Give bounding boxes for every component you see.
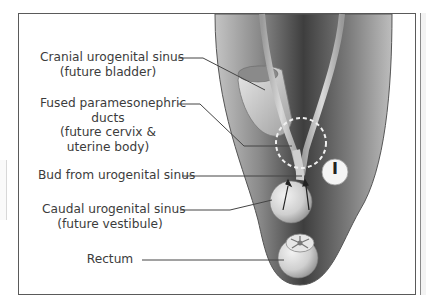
label-line: Cranial urogenital sinus <box>40 50 176 65</box>
stage-badge-label: I <box>329 162 341 177</box>
label-line: ducts <box>40 111 176 126</box>
label-line: (future cervix & <box>40 125 176 140</box>
label-fused-paramesonephric-ducts: Fused paramesonephric ducts (future cerv… <box>40 96 176 154</box>
label-line: Bud from urogenital sinus <box>38 168 180 183</box>
label-line: uterine body) <box>40 140 176 155</box>
label-line: Rectum <box>80 252 140 267</box>
label-line: Caudal urogenital sinus <box>42 202 178 217</box>
label-caudal-urogenital-sinus: Caudal urogenital sinus (future vestibul… <box>42 202 178 231</box>
label-bud-from-urogenital-sinus: Bud from urogenital sinus <box>38 168 180 183</box>
label-line: (future vestibule) <box>42 217 178 232</box>
label-rectum: Rectum <box>80 252 140 267</box>
label-line: Fused paramesonephric <box>40 96 176 111</box>
label-cranial-urogenital-sinus: Cranial urogenital sinus (future bladder… <box>40 50 176 79</box>
label-line: (future bladder) <box>40 65 176 80</box>
